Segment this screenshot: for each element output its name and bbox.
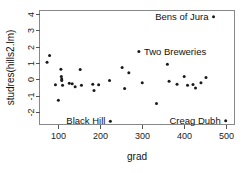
y-tick-label: 3 <box>26 28 36 33</box>
data-point <box>123 87 126 90</box>
data-point <box>68 82 71 85</box>
data-point <box>97 83 100 86</box>
data-point <box>186 84 189 87</box>
data-point <box>59 68 62 71</box>
x-tick-label: 400 <box>177 131 192 141</box>
point-label: Bens of Jura <box>155 11 209 22</box>
y-tick-label: 0 <box>26 77 36 82</box>
data-point <box>108 79 111 82</box>
y-tick-label: 2 <box>26 45 36 50</box>
data-point <box>224 119 227 122</box>
data-point <box>46 61 49 64</box>
data-point <box>141 81 144 84</box>
data-point <box>109 120 112 123</box>
data-point <box>166 63 169 66</box>
y-axis-title: studres(hills2.lm) <box>5 30 16 106</box>
point-label: Creag Dubh <box>169 115 220 126</box>
data-point <box>194 86 197 89</box>
data-point <box>127 71 130 74</box>
x-axis-title: grad <box>127 151 147 162</box>
data-point <box>57 99 60 102</box>
data-point <box>204 76 207 79</box>
data-point <box>183 75 186 78</box>
y-tick-label: -2 <box>26 108 36 116</box>
x-tick-label: 100 <box>51 131 66 141</box>
y-tick-label: 1 <box>26 61 36 66</box>
plot-canvas: 100200300400500-2-101234gradstudres(hill… <box>0 0 248 173</box>
data-point <box>91 83 94 86</box>
data-point <box>168 80 171 83</box>
data-point <box>61 84 64 87</box>
data-point <box>71 82 74 85</box>
data-point <box>54 83 57 86</box>
x-tick-label: 200 <box>93 131 108 141</box>
data-point <box>74 85 77 88</box>
y-tick-label: -1 <box>26 92 36 100</box>
x-tick-label: 300 <box>135 131 150 141</box>
data-point <box>79 68 82 71</box>
data-point <box>176 83 179 86</box>
data-point <box>137 50 140 53</box>
data-point <box>60 75 63 78</box>
point-label: Two Breweries <box>144 46 207 57</box>
data-point <box>212 15 215 18</box>
scatter-plot-figure: 100200300400500-2-101234gradstudres(hill… <box>0 0 248 173</box>
plot-frame <box>40 11 235 125</box>
point-label: Black Hill <box>66 115 105 126</box>
y-tick-label: 4 <box>26 12 36 17</box>
data-point <box>93 89 96 92</box>
data-point <box>48 54 51 57</box>
data-point <box>199 81 202 84</box>
x-tick-label: 500 <box>219 131 234 141</box>
data-point <box>80 84 83 87</box>
data-point <box>191 83 194 86</box>
data-point <box>60 79 63 82</box>
data-point <box>121 66 124 69</box>
data-point <box>155 102 158 105</box>
